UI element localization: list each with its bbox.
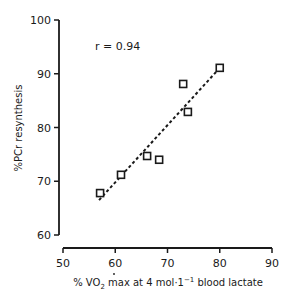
x-tick-label: 70	[161, 257, 175, 270]
y-tick-label: 60	[37, 229, 51, 242]
data-point-square	[180, 80, 187, 87]
y-tick-label: 80	[37, 122, 51, 135]
y-axis-title: %PCr resynthesis	[13, 85, 24, 172]
correlation-annotation: r = 0.94	[95, 40, 140, 53]
y-tick-label: 70	[37, 175, 51, 188]
regression-line	[99, 66, 222, 200]
y-tick-label: 100	[30, 14, 51, 27]
v-dot-mark	[113, 273, 115, 275]
y-tick-label: 90	[37, 68, 51, 81]
data-point-square	[117, 171, 124, 178]
data-point-square	[216, 64, 223, 71]
data-point-square	[144, 152, 151, 159]
scatter-chart: 60708090100 5060708090 r = 0.94 %PCr res…	[0, 0, 291, 301]
x-tick-label: 80	[213, 257, 227, 270]
data-point-square	[97, 190, 104, 197]
y-axis: 60708090100	[30, 14, 59, 242]
x-tick-label: 90	[265, 257, 279, 270]
x-tick-label: 50	[56, 257, 70, 270]
x-axis-title: % VO2 max at 4 mol·1−1 blood lactate	[73, 276, 263, 291]
x-axis: 5060708090	[56, 248, 279, 270]
x-tick-label: 60	[108, 257, 122, 270]
data-point-square	[184, 108, 191, 115]
data-point-square	[156, 156, 163, 163]
